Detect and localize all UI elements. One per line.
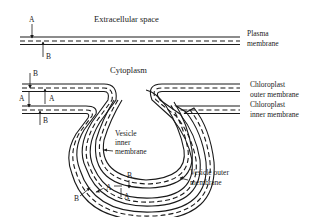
chloroplast-face-b-bottom-marker: B	[38, 111, 48, 126]
svg-text:A: A	[29, 15, 35, 24]
vesicle-inner-pointer	[104, 148, 114, 151]
vesicle-outer-label-line1: Vesicle outer	[190, 168, 229, 177]
svg-text:B: B	[43, 116, 48, 125]
chloroplast-outer-label-line1: Chloroplast	[250, 80, 286, 89]
plasma-membrane-label-line2: membrane	[247, 39, 279, 48]
cytoplasm-heading: Cytoplasm	[110, 65, 147, 75]
svg-text:B: B	[74, 194, 79, 203]
plasma-membrane-label-line1: Plasma	[247, 29, 269, 38]
svg-text:B: B	[46, 52, 51, 61]
svg-text:A: A	[49, 94, 55, 103]
svg-text:A: A	[124, 192, 130, 201]
vesicle-inner-membrane	[95, 90, 192, 188]
vesicle-face-b-top-marker: B	[127, 171, 132, 189]
plasma-membrane	[20, 37, 240, 45]
vesicle-inner-label-line2: inner	[115, 138, 131, 147]
svg-text:B: B	[33, 69, 38, 78]
membrane-fracture-diagram: Extracellular space Plasma membrane A B …	[0, 0, 325, 217]
vesicle-outer-label-line2: membrane	[190, 178, 222, 187]
plasma-face-a-marker: A	[29, 15, 35, 39]
svg-text:A: A	[106, 183, 112, 192]
chloroplast-face-a-right-marker: A	[43, 89, 55, 105]
svg-text:A: A	[19, 94, 25, 103]
chloroplast-face-a-left-marker: A	[19, 92, 31, 108]
chloroplast-face-b-top-marker: B	[28, 69, 38, 89]
chloroplast-inner-label-line2: inner membrane	[250, 110, 300, 119]
extracellular-space-heading: Extracellular space	[94, 14, 159, 24]
vesicle-inner-label-line3: membrane	[115, 147, 147, 156]
svg-text:B: B	[127, 171, 132, 180]
vesicle-inner-label-line1: Vesicle	[115, 129, 137, 138]
chloroplast-inner-label-line1: Chloroplast	[250, 100, 286, 109]
chloroplast-outer-label-line2: outer membrane	[250, 90, 300, 99]
chloroplast-inner-membrane	[22, 106, 240, 217]
